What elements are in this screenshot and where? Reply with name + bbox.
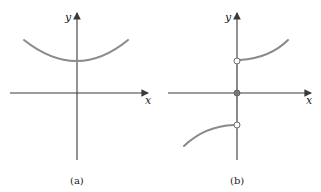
caption-b: (b) [230, 175, 244, 186]
curve-a [24, 40, 128, 61]
x-axis-label-a: x [145, 94, 152, 107]
open-point-upper [234, 58, 240, 64]
figure: y x (a) y x (b) [0, 0, 321, 192]
upper-branch-b [240, 40, 288, 60]
x-axis-label-b: x [306, 94, 313, 107]
open-point-lower [234, 122, 240, 128]
caption-a: (a) [70, 175, 84, 186]
panel-b: y x (b) [168, 11, 313, 186]
filled-point-origin [234, 90, 240, 96]
lower-branch-b [184, 125, 234, 146]
panel-a: y x (a) [10, 11, 152, 186]
y-axis-label-b: y [224, 11, 232, 24]
y-axis-label-a: y [64, 11, 72, 24]
